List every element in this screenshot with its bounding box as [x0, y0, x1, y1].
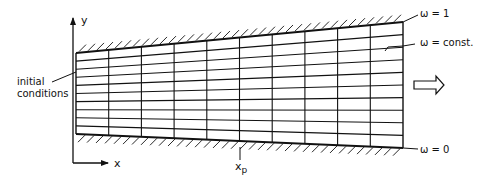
bottom-wall-hatch [348, 147, 355, 154]
top-wall-hatch [268, 27, 275, 34]
bottom-wall-hatch [114, 137, 121, 144]
bottom-wall-hatch [330, 146, 337, 153]
top-wall-hatch [232, 30, 239, 37]
bottom-wall-hatch [186, 140, 193, 147]
bottom-wall-hatch [321, 146, 328, 153]
top-wall-hatch [196, 34, 203, 41]
bottom-wall-hatch [168, 139, 175, 146]
bottom-wall-hatch [195, 140, 202, 147]
bottom-wall-hatch [375, 148, 382, 155]
bottom-wall-hatch [105, 136, 112, 143]
top-wall-hatch [133, 40, 140, 47]
bottom-wall-hatch [357, 147, 364, 154]
flow-direction-arrow-icon [414, 76, 444, 94]
top-wall-hatch [277, 26, 284, 33]
top-wall-hatch [124, 40, 131, 47]
bottom-wall-hatch [267, 143, 274, 150]
bottom-wall-hatch [312, 145, 319, 152]
y-axis-label: y [81, 14, 88, 27]
bottom-wall-hatch [222, 141, 229, 148]
top-wall-hatch [349, 19, 356, 26]
x-axis-label: x [114, 157, 121, 170]
initial-conditions-label-2: conditions [17, 88, 68, 99]
omega-bottom-leader [403, 148, 418, 149]
top-wall-hatch [304, 23, 311, 30]
bottom-wall-hatch [258, 143, 265, 150]
bottom-wall-hatch [132, 137, 139, 144]
xp-label: xp [235, 160, 248, 175]
top-wall-hatch [340, 20, 347, 27]
bottom-wall-hatch [141, 138, 148, 145]
omega-const-label: ω = const. [420, 37, 473, 48]
bottom-wall-hatch [366, 148, 373, 155]
bottom-wall-hatch [339, 146, 346, 153]
bottom-wall-hatch [231, 142, 238, 149]
top-wall-hatch [394, 15, 401, 22]
top-wall-hatch [223, 31, 230, 38]
top-wall-hatch [358, 18, 365, 25]
top-wall-hatch [331, 21, 338, 28]
grid-diagram: y x initial conditions ω = 1 ω = const. … [0, 0, 491, 181]
top-wall-hatch [367, 17, 374, 24]
top-wall-hatch [376, 16, 383, 23]
leader-lines [52, 15, 418, 160]
top-wall-hatch [214, 32, 221, 39]
top-wall-hatch [106, 42, 113, 49]
top-wall-hatch [295, 24, 302, 31]
bottom-wall-hatch [276, 144, 283, 151]
top-wall-hatch [115, 41, 122, 48]
bottom-wall-hatch [294, 144, 301, 151]
top-wall-hatch [169, 36, 176, 43]
xp-sub: p [242, 165, 248, 175]
bottom-wall-hatch [240, 142, 247, 149]
top-wall-hatch [142, 39, 149, 46]
top-wall-hatch [241, 29, 248, 36]
top-wall-hatch [205, 33, 212, 40]
top-wall-hatch [88, 44, 95, 51]
bottom-wall-hatch [177, 139, 184, 146]
bottom-wall-hatch [393, 149, 400, 156]
computational-grid [76, 22, 403, 148]
bottom-wall-hatch [87, 136, 94, 143]
initial-conditions-label-1: initial [17, 76, 45, 87]
bottom-wall-hatch [249, 142, 256, 149]
top-wall-hatch [313, 22, 320, 29]
omega-top-leader [403, 15, 418, 22]
bottom-wall-hatch [150, 138, 157, 145]
top-wall-hatch [322, 22, 329, 29]
top-wall-hatch [178, 35, 185, 42]
omega-bottom-label: ω = 0 [420, 144, 449, 155]
top-wall-hatch [187, 34, 194, 41]
omega-top-label: ω = 1 [420, 8, 449, 19]
bottom-wall-hatch [159, 139, 166, 146]
bottom-wall-hatch [78, 135, 85, 142]
top-wall-hatch [385, 16, 392, 23]
top-wall-hatch [250, 28, 257, 35]
top-wall-hatch [160, 37, 167, 44]
top-wall-hatch [97, 43, 104, 50]
top-wall-hatch [259, 28, 266, 35]
bottom-wall-hatch [303, 145, 310, 152]
top-wall-hatch [286, 25, 293, 32]
bottom-wall-hatch [213, 141, 220, 148]
bottom-wall-hatch [285, 144, 292, 151]
bottom-wall-hatch [123, 137, 130, 144]
top-wall-hatch [79, 45, 86, 52]
bottom-wall-hatch [204, 141, 211, 148]
top-wall-hatch [151, 38, 158, 45]
grid-horizontal-line [76, 110, 403, 111]
bottom-wall-hatch [384, 148, 391, 155]
bottom-wall-hatch [96, 136, 103, 143]
